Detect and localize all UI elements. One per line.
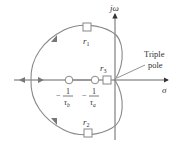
- svg-text:τa: τa: [90, 98, 96, 108]
- root-r1-label: r1: [83, 36, 90, 47]
- svg-text:τb: τb: [64, 98, 70, 108]
- triple-pole-label-line1: Triple: [144, 49, 165, 59]
- locus-lower-branch: [31, 80, 122, 135]
- root-r2-marker: [84, 129, 92, 137]
- zero-tau-a-label: − 1 τa: [82, 87, 99, 108]
- root-locus-diagram: jω σ Triple pole r1 r2 r3 − 1 τb − 1 τa: [0, 0, 181, 147]
- root-r3-marker: [103, 76, 111, 84]
- arrow-right-icon: [38, 77, 44, 83]
- zero-tau-b: [65, 76, 73, 84]
- locus-upper-branch: [31, 25, 122, 80]
- svg-text:−: −: [82, 91, 87, 100]
- zero-tau-b-label: − 1 τb: [56, 87, 73, 108]
- root-r3-label: r3: [100, 63, 107, 74]
- root-r1-marker: [83, 23, 91, 31]
- imag-axis-label: jω: [109, 3, 119, 13]
- arrow-left-icon: [19, 77, 25, 83]
- zero-tau-a: [91, 76, 99, 84]
- root-r2-label: r2: [83, 117, 90, 128]
- svg-text:1: 1: [66, 87, 70, 96]
- real-axis-label: σ: [162, 85, 167, 95]
- triple-pole-label-line2: pole: [148, 60, 163, 70]
- svg-text:1: 1: [92, 87, 96, 96]
- svg-text:−: −: [56, 91, 61, 100]
